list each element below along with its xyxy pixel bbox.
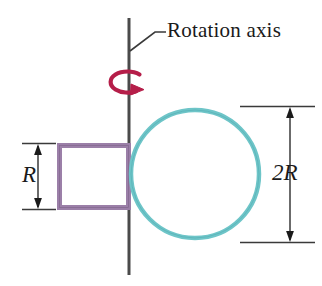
dimension-arrowhead-up xyxy=(286,107,294,118)
rotation-axis-label: Rotation axis xyxy=(167,20,281,41)
diagram-canvas xyxy=(0,0,322,286)
dimension-arrowhead-down xyxy=(286,231,294,242)
square-side-label: R xyxy=(22,163,36,186)
rotation-arrow-icon xyxy=(111,72,144,96)
square-shape xyxy=(60,146,129,208)
dimension-arrowhead-down xyxy=(34,198,42,209)
square-shape-inner-edge xyxy=(60,146,129,208)
dimension-arrowhead-up xyxy=(34,144,42,155)
circle-shape xyxy=(131,110,259,238)
physics-diagram: Rotation axis R 2R xyxy=(0,0,322,286)
leader-line-icon xyxy=(130,32,166,51)
circle-diameter-label: 2R xyxy=(272,161,298,184)
